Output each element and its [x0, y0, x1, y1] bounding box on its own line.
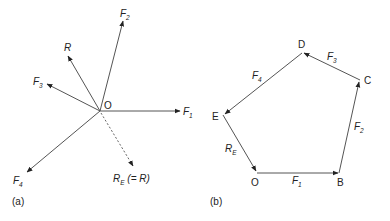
label-f3-a: F3 — [33, 76, 43, 89]
label-f3-b: F3 — [327, 51, 337, 64]
vertex-c: C — [364, 75, 371, 86]
vertex-e: E — [212, 111, 219, 122]
label-re-b: RE — [225, 143, 237, 156]
label-equilibrant-a: RE (= R) — [113, 173, 150, 186]
equilibrant-re-arrow — [101, 113, 133, 166]
vertex-o: O — [251, 177, 259, 188]
force-f2-arrow — [100, 21, 123, 111]
label-f1-a: F1 — [183, 106, 193, 119]
label-f2-b: F2 — [354, 121, 364, 134]
label-f4-b: F4 — [252, 70, 262, 83]
vertex-d: D — [298, 39, 305, 50]
origin-label-a: O — [104, 100, 112, 111]
side-f4 — [225, 53, 302, 114]
label-f4-a: F4 — [13, 175, 23, 188]
force-diagram: O F1 F2 F3 F4 R RE (= R) (a) O B C D E F… — [0, 0, 390, 221]
label-f1-b: F1 — [292, 175, 302, 188]
panel-b: O B C D E F1 F2 F3 F4 RE (b) — [210, 39, 371, 207]
caption-b: (b) — [210, 196, 222, 207]
panel-a: O F1 F2 F3 F4 R RE (= R) (a) — [12, 8, 193, 207]
label-f2-a: F2 — [120, 8, 130, 21]
force-f4-arrow — [27, 111, 100, 172]
label-resultant-a: R — [64, 42, 71, 53]
caption-a: (a) — [12, 196, 24, 207]
vertex-b: B — [337, 177, 344, 188]
